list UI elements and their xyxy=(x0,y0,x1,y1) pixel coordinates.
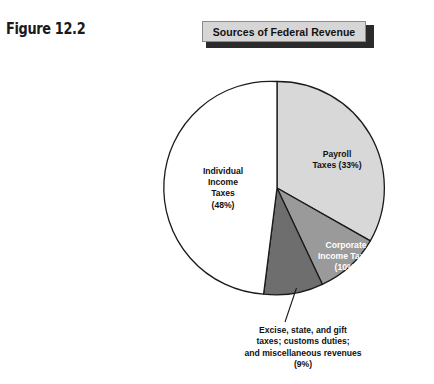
pie-label-line: Taxes xyxy=(186,188,260,199)
pie-label-line: Excise, state, and gift xyxy=(215,325,391,336)
pie-label-payroll-taxes: Payroll Taxes (33%) xyxy=(298,149,376,171)
pie-label-value: Taxes (33%) xyxy=(298,160,376,171)
pie-label-line: Income xyxy=(186,177,260,188)
pie-label-corporate-income-taxes: Corporate Income Taxes (10%) xyxy=(308,240,384,274)
figure-container: Figure 12.2 Sources of Federal Revenue I… xyxy=(0,0,434,384)
pie-label-line: Income Taxes xyxy=(308,251,384,262)
pie-label-value: (10%) xyxy=(308,262,384,273)
pie-label-line: Individual xyxy=(186,166,260,177)
pie-label-value: (9%) xyxy=(215,359,391,370)
pie-label-value: (48%) xyxy=(186,200,260,211)
pie-label-line: Corporate xyxy=(308,240,384,251)
pie-label-excise-and-other: Excise, state, and gift taxes; customs d… xyxy=(215,325,391,371)
pie-label-line: and miscellaneous revenues xyxy=(215,348,391,359)
pie-label-individual-income-taxes: Individual Income Taxes (48%) xyxy=(186,166,260,211)
pie-label-line: Payroll xyxy=(298,149,376,160)
pie-label-line: taxes; customs duties; xyxy=(215,336,391,347)
